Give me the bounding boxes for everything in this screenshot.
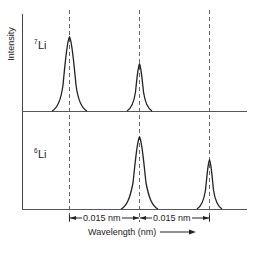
element-li-top: Li: [38, 39, 47, 51]
isotope-shift-diagram: Intensity 7 Li 6 Li 0.015 nm 0.015 nm: [0, 0, 259, 253]
x-axis-direction-arrow: [160, 230, 196, 235]
y-axis-label: Intensity: [6, 27, 16, 61]
isotope-label-7li: 7 Li: [34, 34, 47, 51]
x-axis-label: Wavelength (nm): [88, 227, 156, 237]
isotope-label-6li: 6 Li: [34, 143, 47, 160]
spacing-label-2: 0.015 nm: [153, 213, 191, 223]
spacing-annotation-1: 0.015 nm: [70, 213, 140, 223]
spacing-annotation-2: 0.015 nm: [140, 213, 210, 223]
spacing-label-1: 0.015 nm: [83, 213, 121, 223]
element-li-bottom: Li: [38, 148, 47, 160]
